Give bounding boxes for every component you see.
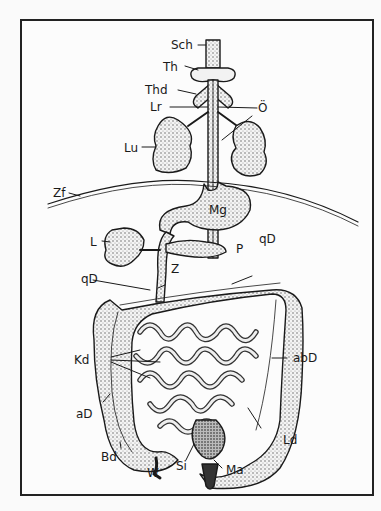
small-intestine-shape — [136, 325, 256, 432]
label-ad: aD — [76, 408, 93, 420]
label-l: L — [90, 236, 97, 248]
label-zf: Zf — [53, 187, 65, 199]
label-th: Th — [163, 61, 178, 73]
label-thd: Thd — [145, 84, 168, 96]
label-lr: Lr — [150, 101, 162, 113]
sigmoid-shape — [192, 420, 225, 459]
label-lu: Lu — [124, 142, 138, 154]
label-sch: Sch — [171, 39, 193, 51]
label-bd: Bd — [101, 451, 117, 463]
right-lung-shape — [231, 121, 266, 176]
label-oe: Ö — [258, 102, 267, 114]
digestive-system-illustration — [0, 0, 381, 511]
label-z: Z — [171, 263, 179, 275]
label-si: Si — [176, 460, 187, 472]
label-qd-right: qD — [259, 233, 276, 245]
label-p: P — [236, 243, 243, 255]
pharynx-shape — [206, 40, 220, 68]
large-intestine-shape — [93, 290, 303, 489]
label-kd: Kd — [74, 354, 90, 366]
label-abd: abD — [293, 352, 317, 364]
label-qd-left: qD — [81, 273, 98, 285]
label-w: W — [147, 467, 159, 479]
label-ld: Ld — [283, 434, 297, 446]
left-lung-shape — [153, 117, 192, 172]
liver-shape — [105, 228, 144, 266]
stomach-shape — [160, 182, 251, 234]
label-ma: Ma — [226, 464, 244, 476]
label-mg: Mg — [209, 204, 227, 216]
